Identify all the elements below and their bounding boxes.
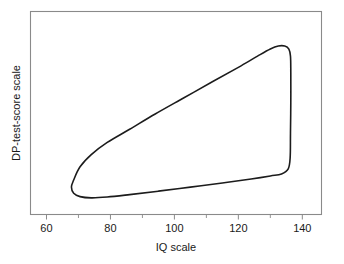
x-tick-label: 140 (293, 222, 311, 234)
chart-figure: 6080100120140 IQ scale DP-test-score sca… (0, 0, 344, 264)
x-axis-title: IQ scale (156, 241, 196, 253)
x-tick-label: 60 (40, 222, 52, 234)
y-axis-title: DP-test-score scale (10, 65, 22, 161)
chart-canvas: 6080100120140 IQ scale DP-test-score sca… (0, 0, 344, 264)
x-tick-label: 100 (165, 222, 183, 234)
x-tick-label: 120 (229, 222, 247, 234)
x-tick-label: 80 (104, 222, 116, 234)
